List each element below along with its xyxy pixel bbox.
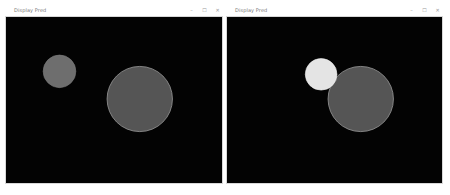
small-bright-circle <box>305 59 337 91</box>
window-title: Display Pred <box>235 7 267 13</box>
close-button[interactable]: ✕ <box>431 4 444 16</box>
prediction-image <box>6 17 222 183</box>
app-feather-icon <box>7 7 12 13</box>
large-circle <box>328 66 393 131</box>
image-canvas[interactable] <box>226 16 443 184</box>
prediction-image <box>227 17 442 183</box>
maximize-button[interactable]: ☐ <box>198 4 211 16</box>
app-feather-icon <box>228 7 233 13</box>
close-button[interactable]: ✕ <box>211 4 224 16</box>
image-window-left: Display Pred – ☐ ✕ <box>4 4 224 185</box>
minimize-button[interactable]: – <box>185 4 198 16</box>
image-canvas[interactable] <box>5 16 223 184</box>
window-titlebar[interactable]: Display Pred – ☐ ✕ <box>225 4 444 16</box>
window-title: Display Pred <box>14 7 46 13</box>
small-circle <box>43 55 76 88</box>
image-window-right: Display Pred – ☐ ✕ <box>225 4 444 185</box>
window-controls: – ☐ ✕ <box>405 4 444 16</box>
desktop: Display Pred – ☐ ✕ Display Pred – <box>0 0 450 195</box>
minimize-button[interactable]: – <box>405 4 418 16</box>
window-controls: – ☐ ✕ <box>185 4 224 16</box>
large-circle <box>107 66 172 131</box>
maximize-button[interactable]: ☐ <box>418 4 431 16</box>
window-titlebar[interactable]: Display Pred – ☐ ✕ <box>4 4 224 16</box>
